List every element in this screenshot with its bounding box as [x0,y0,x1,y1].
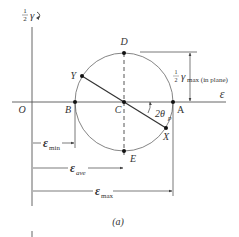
svg-text:1: 1 [23,7,27,15]
point-label-D: D [119,36,128,47]
mohrs-circle-diagram: 1 2 γ ε O D E B A C Y X 2θ p 1 2 γ [0,0,239,237]
svg-text:γ: γ [181,70,186,82]
figure-caption: (a) [112,216,124,228]
svg-text:2: 2 [175,77,178,83]
svg-text:2: 2 [23,15,27,23]
svg-text:ε: ε [95,184,100,198]
point-label-A: A [177,104,185,115]
point-label-X: X [162,131,170,142]
angle-label: 2θ p [155,108,172,122]
point-label-E: E [129,153,136,164]
angle-arc [148,102,150,113]
svg-text:ε: ε [43,136,48,150]
point-label-C: C [115,104,122,115]
svg-text:max (in plane): max (in plane) [187,76,228,84]
horizontal-axis-label: ε [220,87,225,101]
svg-text:p: p [167,114,172,122]
eps-min-label: ε min [43,136,60,152]
gamma-max-label: 1 2 γ max (in plane) [173,69,228,84]
svg-text:ave: ave [76,169,86,177]
eps-max-label: ε max [95,184,114,200]
svg-text:min: min [49,144,60,152]
point-label-Y: Y [70,70,77,81]
svg-text:1: 1 [175,69,178,75]
eps-ave-label: ε ave [70,161,86,177]
svg-text:ε: ε [70,161,75,175]
svg-text:2θ: 2θ [155,108,165,119]
point-label-B: B [65,104,71,115]
vertical-axis-label: 1 2 γ [22,7,40,23]
svg-text:γ: γ [30,9,35,21]
svg-text:max: max [101,192,114,200]
origin-label: O [18,104,25,115]
